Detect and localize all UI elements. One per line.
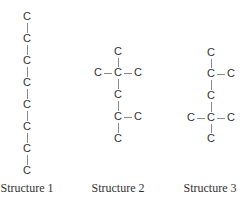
carbon-atom: C bbox=[21, 77, 33, 89]
carbon-atom: C bbox=[112, 46, 124, 58]
carbon-atom: C bbox=[132, 111, 144, 123]
carbon-atom: C bbox=[205, 90, 217, 102]
structure-caption: Structure 3 bbox=[184, 181, 237, 196]
bond-line bbox=[217, 118, 225, 119]
carbon-atom: C bbox=[205, 47, 217, 59]
carbon-atom: C bbox=[205, 133, 217, 145]
structure-caption: Structure 2 bbox=[92, 181, 145, 196]
carbon-atom: C bbox=[185, 112, 197, 124]
carbon-atom: C bbox=[225, 68, 237, 80]
carbon-atom: C bbox=[112, 89, 124, 101]
bond-line bbox=[104, 73, 112, 74]
carbon-atom: C bbox=[112, 133, 124, 145]
structures-figure: CCCCCCCCStructure 1 CCCCCCCCStructure 2 … bbox=[0, 0, 245, 199]
carbon-atom: C bbox=[205, 112, 217, 124]
bond-line bbox=[217, 74, 225, 75]
carbon-atom: C bbox=[205, 68, 217, 80]
carbon-atom: C bbox=[21, 55, 33, 67]
carbon-atom: C bbox=[112, 67, 124, 79]
carbon-atom: C bbox=[225, 112, 237, 124]
structure-caption: Structure 1 bbox=[1, 181, 54, 196]
carbon-atom: C bbox=[132, 67, 144, 79]
bond-line bbox=[124, 73, 132, 74]
carbon-atom: C bbox=[21, 165, 33, 177]
carbon-atom: C bbox=[112, 111, 124, 123]
bond-line bbox=[124, 117, 132, 118]
carbon-atom: C bbox=[21, 121, 33, 133]
carbon-atom: C bbox=[21, 33, 33, 45]
carbon-atom: C bbox=[21, 11, 33, 23]
bond-line bbox=[197, 118, 205, 119]
carbon-atom: C bbox=[21, 143, 33, 155]
carbon-atom: C bbox=[92, 67, 104, 79]
carbon-atom: C bbox=[21, 99, 33, 111]
